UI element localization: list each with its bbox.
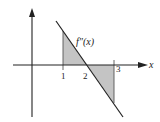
x-axis-label: x: [148, 59, 154, 70]
y-axis-arrow-icon: [29, 8, 35, 17]
tick-label-3: 3: [116, 64, 121, 74]
tick-label-1: 1: [61, 71, 66, 81]
x-axis-arrow-icon: [138, 62, 148, 68]
chart-canvas: f″(x) x 1 2 3: [0, 0, 160, 122]
function-label: f″(x): [76, 36, 95, 48]
tick-label-2: 2: [83, 71, 88, 81]
